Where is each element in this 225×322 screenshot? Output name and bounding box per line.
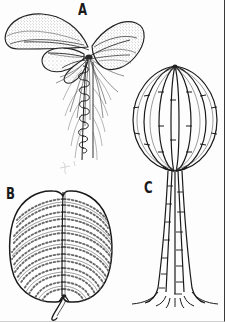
figure-c-label: C (144, 181, 153, 196)
plate-artwork (0, 0, 225, 322)
figure-c-trunk (145, 171, 205, 303)
figure-c-globe-base (163, 167, 187, 171)
figure-b-label: B (6, 187, 15, 202)
figure-c-crown-node (173, 64, 178, 67)
figure-c-rib-shadows (137, 68, 213, 169)
figure-a-label: A (78, 3, 87, 18)
plate-smudge-artifact (60, 161, 75, 174)
illustration-plate: A B C (0, 0, 225, 322)
figure-c-rib-joints (133, 92, 217, 152)
figure-a-stem (82, 62, 93, 160)
figure-a-artwork (5, 14, 144, 160)
figure-a-leaf-upper-right (92, 22, 144, 70)
figure-c-outer-ribs (133, 66, 217, 171)
figure-b-base-node (62, 294, 67, 297)
figure-a-leaf-upper-left (5, 14, 88, 49)
figure-b-artwork (10, 191, 112, 320)
figure-a-apex-node (85, 54, 92, 59)
